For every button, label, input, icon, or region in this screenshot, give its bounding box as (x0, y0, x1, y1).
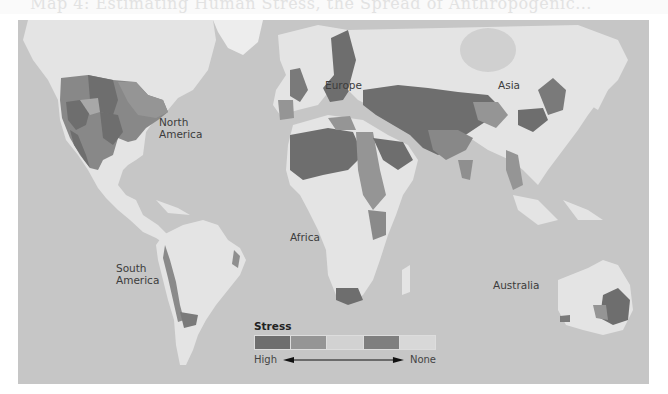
heading-fragment: Map 4: Estimating Human Stress, the Spre… (30, 0, 592, 13)
label-line: Asia (498, 79, 520, 91)
label-europe: Europe (325, 79, 362, 91)
label-line: South (116, 262, 159, 274)
legend-title: Stress (254, 320, 454, 332)
label-south-america: South America (116, 262, 159, 286)
label-line: Australia (493, 279, 539, 291)
label-africa: Africa (290, 231, 320, 243)
legend-high-label: High (254, 354, 277, 365)
label-north-america: North America (159, 116, 202, 140)
label-line: Africa (290, 231, 320, 243)
swatch-level-2 (291, 336, 327, 349)
label-australia: Australia (493, 279, 539, 291)
legend-none-label: None (410, 354, 436, 365)
stress-legend: Stress High None (254, 320, 454, 365)
label-line: America (159, 128, 202, 140)
legend-swatches (254, 335, 436, 350)
cut-off-heading: Map 4: Estimating Human Stress, the Spre… (0, 0, 668, 14)
label-asia: Asia (498, 79, 520, 91)
label-line: America (116, 274, 159, 286)
double-headed-arrow-icon (283, 355, 404, 365)
swatch-level-5 (400, 336, 435, 349)
label-line: North (159, 116, 202, 128)
swatch-level-4 (364, 336, 400, 349)
world-map: North America Europe Asia Africa South A… (18, 20, 649, 384)
swatch-level-1 (255, 336, 291, 349)
legend-scale: High None (254, 354, 436, 365)
label-line: Europe (325, 79, 362, 91)
swatch-level-3 (327, 336, 363, 349)
